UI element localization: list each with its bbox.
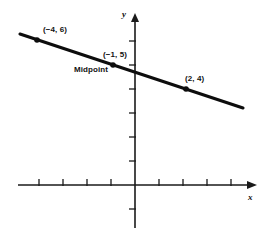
x-axis-group bbox=[18, 179, 257, 189]
point-marker-p3 bbox=[183, 86, 189, 92]
x-axis-label: x bbox=[248, 192, 253, 202]
coordinate-plane-svg bbox=[0, 0, 277, 236]
midpoint-diagram-figure: (−4, 6) (−1, 5) (2, 4) Midpoint y x bbox=[0, 0, 277, 236]
midpoint-annotation-label: Midpoint bbox=[74, 65, 108, 74]
point-label-p2: (−1, 5) bbox=[103, 50, 127, 59]
y-axis-label: y bbox=[122, 9, 126, 19]
plotted-line bbox=[20, 34, 243, 108]
y-axis-arrow-icon bbox=[131, 13, 139, 22]
point-label-p3: (2, 4) bbox=[185, 74, 204, 83]
y-axis-group bbox=[129, 13, 139, 228]
point-marker-p1 bbox=[34, 37, 40, 43]
point-label-p1: (−4, 6) bbox=[43, 25, 67, 34]
point-marker-p2 bbox=[110, 62, 116, 68]
x-axis-arrow-icon bbox=[247, 181, 257, 189]
